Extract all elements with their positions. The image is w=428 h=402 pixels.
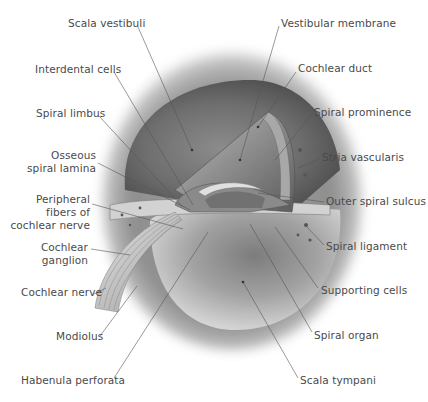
label-cochlear-duct: Cochlear duct bbox=[298, 62, 372, 75]
label-outer-spiral-sulcus: Outer spiral sulcus bbox=[326, 195, 426, 208]
label-spiral-organ: Spiral organ bbox=[314, 329, 379, 342]
label-peripheral-fibers: Peripheral fibers of cochlear nerve bbox=[10, 193, 90, 232]
label-modiolus: Modiolus bbox=[56, 330, 103, 343]
label-spiral-limbus: Spiral limbus bbox=[36, 107, 105, 120]
label-vestibular-membrane: Vestibular membrane bbox=[281, 17, 396, 30]
label-line: cochlear nerve bbox=[10, 219, 90, 232]
label-osseous-spiral-lamina: Osseous spiral lamina bbox=[27, 149, 96, 175]
label-line: ganglion bbox=[41, 254, 88, 267]
label-habenula-perforata: Habenula perforata bbox=[21, 374, 125, 387]
label-spiral-ligament: Spiral ligament bbox=[326, 240, 407, 253]
label-spiral-prominence: Spiral prominence bbox=[314, 106, 411, 119]
label-line: Peripheral bbox=[10, 193, 90, 206]
label-cochlear-nerve: Cochlear nerve bbox=[21, 286, 102, 299]
cochlea-diagram: Scala vestibuli Interdental cells Spiral… bbox=[0, 0, 428, 402]
label-line: spiral lamina bbox=[27, 162, 96, 175]
label-cochlear-ganglion: Cochlear ganglion bbox=[41, 241, 88, 267]
label-scala-tympani: Scala tympani bbox=[300, 374, 376, 387]
label-scala-vestibuli: Scala vestibuli bbox=[68, 17, 145, 30]
label-line: fibers of bbox=[10, 206, 90, 219]
label-line: Osseous bbox=[27, 149, 96, 162]
label-supporting-cells: Supporting cells bbox=[321, 284, 407, 297]
label-interdental-cells: Interdental cells bbox=[35, 63, 121, 76]
label-stria-vascularis: Stria vascularis bbox=[322, 151, 404, 164]
label-line: Cochlear bbox=[41, 241, 88, 254]
